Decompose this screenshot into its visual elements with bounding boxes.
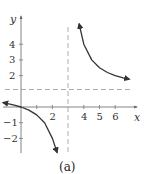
x-tick-label: 6: [112, 111, 118, 122]
x-tick-label: 4: [81, 111, 87, 122]
graph: 2 4 5 6 4 3 2 −1 −2 y x (a): [0, 0, 148, 174]
y-tick-label: 3: [9, 54, 15, 65]
y-tick-label: −2: [3, 133, 18, 144]
right-branch-curve: [79, 24, 129, 79]
x-tick-label: 2: [50, 111, 56, 122]
y-tick-label: −1: [3, 117, 18, 128]
y-tick-label: 4: [9, 39, 15, 50]
y-tick-label: 2: [9, 70, 15, 81]
y-axis-label: y: [9, 13, 17, 26]
figure-caption: (a): [59, 160, 76, 174]
x-tick-label: 5: [97, 111, 103, 122]
x-axis-label: x: [134, 111, 141, 124]
